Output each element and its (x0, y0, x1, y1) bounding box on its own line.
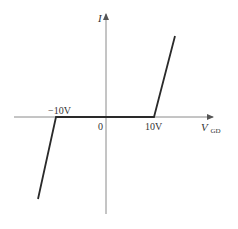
y-axis-label: I (97, 12, 103, 24)
x-axis-label-main: V (201, 121, 209, 133)
x-axis-label: V GD (201, 121, 221, 135)
tick-label-negative-10v: −10V (48, 105, 72, 116)
tick-label-positive-10v: 10V (145, 121, 163, 132)
origin-label: 0 (98, 121, 103, 132)
x-axis-label-subscript: GD (210, 127, 220, 135)
iv-characteristic-diagram: I 0 −10V 10V V GD (0, 0, 238, 229)
